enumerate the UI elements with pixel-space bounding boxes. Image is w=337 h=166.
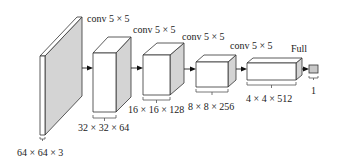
output-block xyxy=(309,65,318,73)
size-label-layer3: 8 × 8 × 256 xyxy=(188,101,234,112)
size-label-input: 64 × 64 × 3 xyxy=(17,147,63,158)
op-label-conv3: conv 5 × 5 xyxy=(182,31,225,42)
arrow-layer2-to-layer3 xyxy=(184,67,196,72)
arrow-input-to-layer1 xyxy=(82,66,93,71)
op-label-conv4: conv 5 × 5 xyxy=(230,40,273,51)
arrow-layer4-to-output xyxy=(302,67,309,72)
output-brace xyxy=(309,76,318,80)
layer2-brace xyxy=(143,97,170,103)
op-label-full: Full xyxy=(291,43,307,54)
layer2-block xyxy=(143,43,184,95)
size-label-layer4: 4 × 4 × 512 xyxy=(246,93,292,104)
cnn-diagram: conv 5 × 5 conv 5 × 5 conv 5 × 5 conv 5 … xyxy=(0,0,337,166)
layer1-brace xyxy=(93,115,116,121)
layer1-block xyxy=(93,37,131,112)
op-label-conv1: conv 5 × 5 xyxy=(87,13,130,24)
layer3-block xyxy=(196,55,236,87)
input-layer-block xyxy=(40,17,82,135)
size-label-output: 1 xyxy=(311,85,316,96)
layer4-block xyxy=(247,58,302,80)
layer3-brace xyxy=(196,89,228,95)
size-label-layer1: 32 × 32 × 64 xyxy=(78,122,129,133)
layer4-brace xyxy=(247,82,296,88)
arrow-layer3-to-layer4 xyxy=(236,67,247,72)
input-brace xyxy=(40,137,45,141)
size-label-layer2: 16 × 16 × 128 xyxy=(128,104,184,115)
arrow-layer1-to-layer2 xyxy=(131,66,143,71)
op-label-conv2: conv 5 × 5 xyxy=(133,24,176,35)
